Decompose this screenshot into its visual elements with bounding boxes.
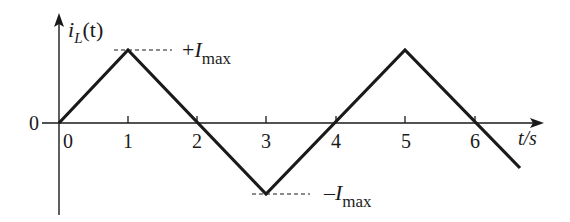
max-label: +Imax xyxy=(182,37,232,68)
x-tick-label-6: 6 xyxy=(470,130,480,152)
x-ticks xyxy=(128,116,475,123)
x-axis-label: t/s xyxy=(518,127,537,149)
x-tick-label-0: 0 xyxy=(63,130,73,152)
y-axis-label: iL(t) xyxy=(68,17,103,46)
x-tick-label-3: 3 xyxy=(261,130,271,152)
min-label: –Imax xyxy=(323,180,372,211)
origin-label: 0 xyxy=(29,112,39,134)
x-tick-label-2: 2 xyxy=(192,130,202,152)
waveform-diagram: iL(t) 0 0 1 2 3 4 5 6 t/s +Imax –Imax xyxy=(0,0,570,222)
x-tick-label-4: 4 xyxy=(331,130,341,152)
x-tick-label-5: 5 xyxy=(401,130,411,152)
x-tick-label-1: 1 xyxy=(123,130,133,152)
